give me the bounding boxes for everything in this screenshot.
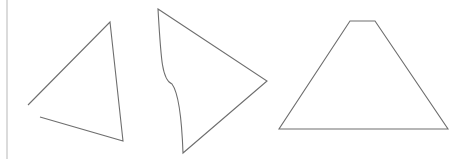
open-triangle-shape: [28, 22, 123, 141]
curved-kite-shape: [158, 9, 267, 153]
drawing-canvas: [0, 0, 472, 159]
trapezoid-shape: [279, 21, 448, 129]
